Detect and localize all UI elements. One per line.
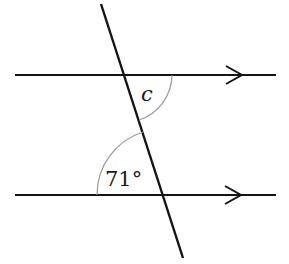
transversal-line <box>101 4 183 258</box>
parallel-lines-diagram: c 71° <box>0 0 289 264</box>
angle-c-label: c <box>141 82 153 106</box>
angle-71-label: 71° <box>105 167 142 191</box>
